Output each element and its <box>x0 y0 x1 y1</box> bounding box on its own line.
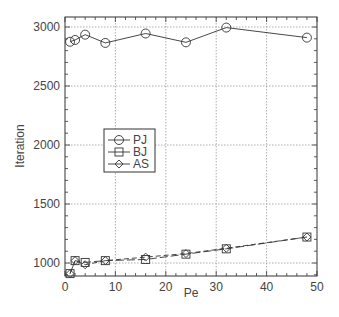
grid-lines <box>65 17 317 276</box>
y-tick-label: 2000 <box>33 138 60 152</box>
x-tick-label: 30 <box>210 280 224 294</box>
y-tick-label: 1500 <box>33 197 60 211</box>
x-tick-label: 10 <box>109 280 123 294</box>
y-axis-title: Iteration <box>13 124 27 167</box>
axis-ticks: 0102030405010001500200025003000 <box>33 17 324 294</box>
x-tick-label: 0 <box>62 280 69 294</box>
y-tick-label: 2500 <box>33 79 60 93</box>
x-tick-label: 40 <box>260 280 274 294</box>
data-series <box>66 23 312 278</box>
iteration-vs-pe-chart: 0102030405010001500200025003000 Pe Itera… <box>0 0 339 317</box>
legend: PJBJAS <box>104 129 155 172</box>
x-axis-title: Pe <box>184 286 199 300</box>
y-tick-label: 1000 <box>33 256 60 270</box>
plot-frame <box>65 17 317 276</box>
x-tick-label: 50 <box>310 280 324 294</box>
series-as <box>66 233 311 278</box>
legend-label: AS <box>133 157 149 171</box>
series-line <box>70 28 307 43</box>
x-tick-label: 20 <box>159 280 173 294</box>
y-tick-label: 3000 <box>33 20 60 34</box>
